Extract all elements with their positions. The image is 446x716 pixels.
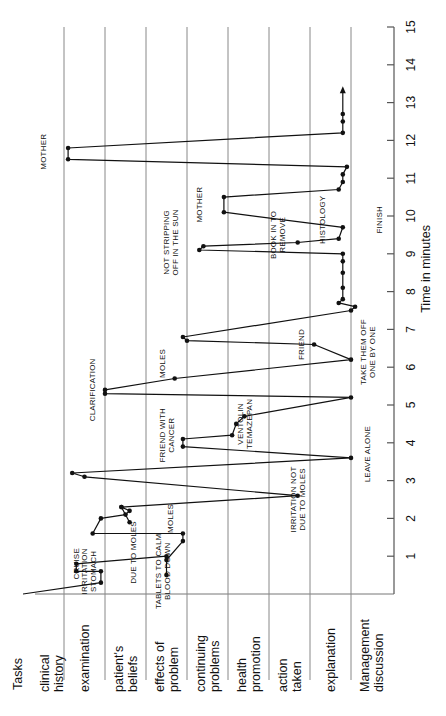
annotation-irritation-not-due-to-moles: IRRITATION NOT — [289, 466, 298, 532]
event-dot — [181, 335, 186, 340]
annotation-ventolin-temazepan: TEMAZEPAN — [245, 399, 254, 449]
event-dot — [341, 252, 346, 257]
annotation-take-them-off-one-by-one: TAKE THEM OFF — [359, 319, 368, 385]
time-tick-label: 13 — [404, 96, 418, 110]
time-tick-label: 4 — [404, 439, 418, 446]
annotation-friend: FRIEND — [297, 329, 306, 360]
event-dot — [230, 433, 235, 438]
time-tick-label: 15 — [404, 20, 418, 34]
annotation-ventolin-temazepan: VENTOLIN — [236, 403, 245, 444]
event-dot — [181, 539, 186, 544]
time-axis-title: Time in minutes — [419, 225, 433, 313]
task-label-effects-of-problem: effects of — [153, 641, 167, 692]
task-label-patient-s-beliefs: patient's — [112, 646, 126, 692]
annotation-finish: FINISH — [375, 206, 384, 233]
event-dot — [181, 531, 186, 536]
annotation-leave-alone: LEAVE ALONE — [363, 426, 372, 482]
event-dot — [222, 195, 227, 200]
time-tick-label: 3 — [404, 477, 418, 484]
event-dot — [222, 210, 227, 215]
event-dot — [197, 248, 202, 253]
event-dot — [341, 131, 346, 136]
annotation-friend-with-cancer: FRIEND WITH — [158, 408, 167, 463]
task-label-patient-s-beliefs: beliefs — [126, 656, 140, 692]
event-dot — [295, 240, 300, 245]
event-dot — [349, 456, 354, 461]
annotation-tablets-to-calm-blood-down: BLOOD DOWN — [163, 543, 172, 601]
annotation-irritation-stomach: STOMACH — [89, 551, 98, 592]
event-dot — [312, 342, 317, 347]
event-dot — [119, 505, 124, 510]
time-tick-label: 10 — [404, 209, 418, 223]
annotation-moles: MOLES — [158, 349, 167, 378]
task-label-explanation: explanation — [324, 628, 338, 692]
event-dot — [181, 437, 186, 442]
event-dot — [341, 259, 346, 264]
annotation-mother: MOTHER — [39, 134, 48, 170]
annotation-irritation-not-due-to-moles: DUE TO MOLES — [298, 468, 307, 531]
annotation-book-in-to-remove: REMOVE — [278, 217, 287, 253]
annotation-mother: MOTHER — [195, 187, 204, 223]
annotation-due-to-moles: DUE TO MOLES — [129, 521, 138, 584]
time-tick-label: 6 — [404, 364, 418, 371]
task-label-management-discussion: Management — [358, 619, 372, 692]
task-label-management-discussion: discussion — [372, 634, 386, 692]
event-dot — [127, 509, 132, 514]
task-label-action-taken: taken — [290, 661, 304, 692]
event-dot — [341, 225, 346, 230]
task-label-examination: examination — [78, 625, 92, 692]
event-dot — [345, 165, 350, 170]
event-dot — [185, 338, 190, 343]
time-tick-label: 12 — [404, 133, 418, 147]
event-dot — [123, 512, 128, 517]
annotation-not-stripping-off-in-the-sun: NOT STRIPPING — [162, 210, 171, 275]
event-dot — [336, 236, 341, 241]
consultation-path-line — [23, 86, 357, 594]
event-dot — [349, 395, 354, 400]
annotation-take-them-off-one-by-one: ONE BY ONE — [368, 326, 377, 378]
event-dot — [341, 270, 346, 275]
continuation-arrow-icon — [340, 86, 346, 93]
task-label-action-taken: action — [276, 659, 290, 692]
time-tick-label: 1 — [404, 553, 418, 560]
time-tick-label: 2 — [404, 515, 418, 522]
event-dot — [103, 388, 108, 393]
event-dot — [341, 172, 346, 177]
event-dot — [82, 475, 87, 480]
event-dot — [181, 444, 186, 449]
annotation-tablets-to-calm-blood-down: TABLETS TO CALM — [154, 533, 163, 609]
time-tick-label: 11 — [404, 172, 418, 185]
annotation-friend-with-cancer: CANCER — [167, 418, 176, 453]
event-dot — [341, 286, 346, 291]
event-dot — [349, 357, 354, 362]
event-dot — [341, 297, 346, 302]
time-tick-label: 5 — [404, 401, 418, 408]
event-dot — [66, 146, 71, 151]
event-dot — [353, 304, 358, 309]
annotation-clarification: CLARIFICATION — [88, 358, 97, 421]
tasks-header: Tasks — [11, 658, 25, 690]
consultation-timeline-chart: 123456789101112131415Time in minutes Tas… — [0, 0, 446, 716]
annotation-moles: MOLES — [166, 504, 175, 533]
task-label-health-promotion: health — [235, 658, 249, 692]
time-tick-label: 8 — [404, 288, 418, 295]
event-dot — [341, 180, 346, 185]
annotation-not-stripping-off-in-the-sun: OFF IN THE SUN — [171, 209, 180, 275]
event-dot — [99, 516, 104, 521]
annotation-irritation-stomach: IRRITATION — [80, 548, 89, 594]
event-dot — [99, 569, 104, 574]
time-tick-label: 14 — [404, 58, 418, 72]
annotation-histology: HISTOLOGY — [318, 195, 327, 244]
task-row-labels: Tasksclinicalhistoryexaminationpatient's… — [11, 619, 386, 692]
time-tick-label: 9 — [404, 250, 418, 257]
task-label-continuing-problems: problems — [208, 641, 222, 692]
event-dot — [99, 580, 104, 585]
task-label-effects-of-problem: problem — [167, 647, 181, 692]
event-dot — [70, 471, 75, 476]
task-label-continuing-problems: continuing — [194, 635, 208, 692]
event-dot — [341, 119, 346, 124]
event-annotations: CRUISEIRRITATIONSTOMACHTABLETS TO CALMBL… — [39, 134, 384, 609]
event-dot — [349, 308, 354, 313]
time-axis: 123456789101112131415Time in minutes — [387, 20, 433, 594]
annotation-book-in-to-remove: BOOK IN TO — [269, 211, 278, 259]
